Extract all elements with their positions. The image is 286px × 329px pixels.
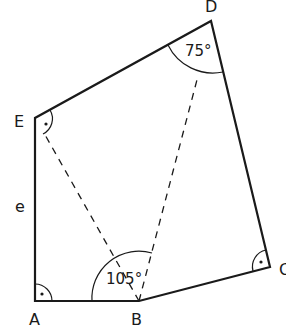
diagonal-bd xyxy=(139,76,198,301)
vertex-label-e: E xyxy=(14,112,24,131)
vertex-label-b: B xyxy=(131,310,142,329)
vertex-label-d: D xyxy=(205,0,217,16)
right-angle-arc-a xyxy=(35,284,52,301)
angle-label-b: 105° xyxy=(106,270,142,288)
angle-label-d: 75° xyxy=(185,42,212,60)
vertex-label-c: C xyxy=(279,260,286,279)
right-angle-dot-e xyxy=(44,122,47,125)
pentagon-diagram: 75° 105° A B C D E e xyxy=(0,0,286,329)
right-angle-dot-a xyxy=(40,292,43,295)
pentagon-outline xyxy=(35,21,270,301)
vertex-label-a: A xyxy=(29,310,40,329)
side-label-e: e xyxy=(15,197,25,216)
right-angle-dot-c xyxy=(259,260,262,263)
